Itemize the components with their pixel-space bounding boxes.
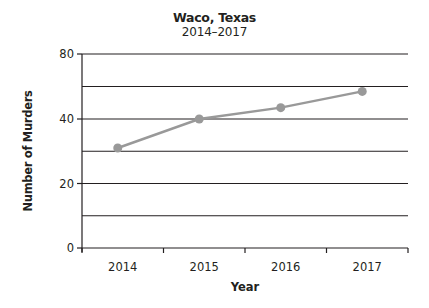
data-point — [113, 144, 122, 153]
y-tick-label: 20 — [59, 177, 74, 191]
data-point — [276, 103, 285, 112]
x-tick-label: 2016 — [271, 260, 300, 274]
series-line — [118, 91, 363, 148]
y-tick-label: 40 — [59, 112, 74, 126]
x-tick-label: 2017 — [353, 260, 382, 274]
data-point — [358, 87, 367, 96]
data-point — [195, 115, 204, 124]
x-tick-label: 2015 — [190, 260, 219, 274]
y-tick-label: 0 — [67, 241, 74, 255]
y-tick-label: 80 — [59, 47, 74, 61]
line-chart: 02040802014201520162017 — [0, 0, 429, 308]
x-tick-label: 2014 — [108, 260, 137, 274]
